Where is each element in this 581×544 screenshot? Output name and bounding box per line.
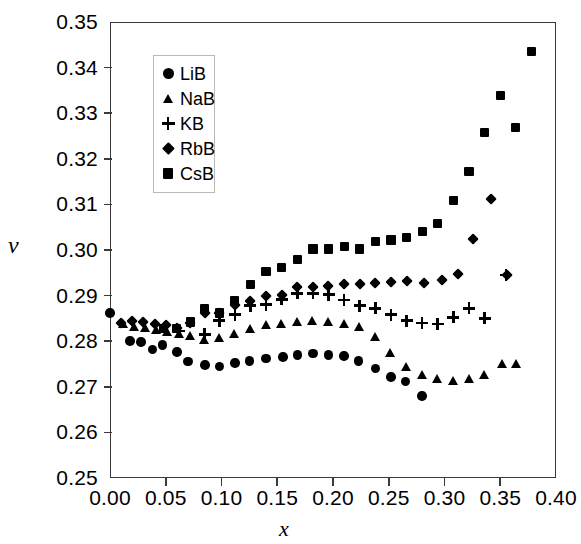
data-point-csb [245, 279, 255, 289]
data-point-lib [158, 340, 168, 350]
legend-item-label: RbB [180, 140, 215, 158]
data-point-rbb [323, 281, 334, 292]
data-point-lib [293, 350, 303, 360]
data-point-kb [338, 294, 350, 306]
data-point-rbb [276, 289, 287, 300]
data-point-rbb [138, 317, 149, 328]
data-point-rbb [486, 193, 497, 204]
data-point-kb [401, 315, 413, 327]
data-point-kb [416, 317, 428, 329]
data-point-csb [185, 317, 195, 327]
data-point-rbb [385, 276, 396, 287]
triangle-marker-icon [160, 91, 176, 107]
data-point-csb [526, 47, 536, 57]
data-point-lib [324, 350, 334, 360]
data-point-rbb [452, 268, 463, 279]
y-axis-tick [104, 340, 112, 342]
data-point-rbb [468, 233, 479, 244]
x-axis-tick [165, 478, 167, 486]
data-point-kb [447, 311, 459, 323]
data-point-nab [214, 332, 225, 343]
x-axis-tick [221, 478, 223, 486]
data-point-kb [463, 302, 475, 314]
y-axis-tick-label: 0.32 [26, 148, 98, 169]
data-point-nab [511, 358, 522, 369]
legend-item-label: KB [180, 115, 204, 133]
data-point-nab [292, 316, 303, 327]
y-axis-tick-label: 0.30 [26, 239, 98, 260]
data-point-nab [370, 331, 381, 342]
data-point-csb [386, 235, 396, 245]
data-point-csb [464, 167, 474, 177]
data-point-csb [261, 267, 271, 277]
data-point-csb [433, 219, 443, 229]
data-point-csb [230, 296, 240, 306]
data-point-nab [229, 327, 240, 338]
data-point-rbb [419, 277, 430, 288]
data-point-rbb [501, 270, 512, 281]
data-point-nab [385, 347, 396, 358]
data-point-nab [401, 361, 412, 372]
legend-item-kb: KB [154, 111, 214, 136]
y-axis-tick [104, 67, 112, 69]
data-point-lib [172, 347, 182, 357]
data-point-csb [214, 308, 224, 318]
data-point-nab [448, 374, 459, 385]
data-point-lib [417, 391, 427, 401]
data-point-csb [292, 254, 302, 264]
data-point-lib [386, 372, 396, 382]
data-point-csb [308, 244, 318, 254]
data-point-nab [417, 369, 428, 380]
y-axis-tick-label: 0.34 [26, 57, 98, 78]
data-point-nab [276, 317, 287, 328]
data-point-csb [172, 323, 182, 333]
data-point-kb [385, 309, 397, 321]
data-point-csb [200, 303, 210, 313]
legend-item-rbb: RbB [154, 136, 214, 161]
y-axis-tick [104, 386, 112, 388]
data-point-rbb [116, 317, 127, 328]
data-point-nab [245, 323, 256, 334]
y-axis-tick-label: 0.28 [26, 330, 98, 351]
data-point-lib [230, 358, 240, 368]
data-point-csb [495, 91, 505, 101]
data-point-lib [401, 377, 411, 387]
legend-item-label: NaB [180, 90, 215, 108]
data-point-nab [432, 373, 443, 384]
data-point-kb [369, 302, 381, 314]
data-point-lib [125, 336, 135, 346]
data-point-lib [136, 337, 146, 347]
y-axis-tick [104, 295, 112, 297]
data-point-lib [261, 354, 271, 364]
x-axis-tick [499, 478, 501, 486]
legend: LiBNaBKBRbBCsB [153, 55, 215, 193]
data-point-nab [339, 317, 350, 328]
x-axis-tick [332, 478, 334, 486]
data-point-csb [480, 127, 490, 137]
x-axis-tick [388, 478, 390, 486]
data-point-nab [323, 316, 334, 327]
x-axis-tick [444, 478, 446, 486]
data-point-lib [148, 345, 158, 355]
data-point-nab [307, 315, 318, 326]
data-point-csb [324, 244, 334, 254]
data-point-csb [417, 227, 427, 237]
data-point-lib [354, 356, 364, 366]
data-point-lib [339, 351, 349, 361]
x-axis-tick [276, 478, 278, 486]
data-point-kb [432, 318, 444, 330]
data-point-lib [371, 364, 381, 374]
x-axis-title: x [0, 516, 568, 542]
data-point-lib [308, 349, 318, 359]
circle-marker-icon [160, 66, 176, 82]
data-point-rbb [292, 282, 303, 293]
data-point-lib [200, 360, 210, 370]
data-point-rbb [307, 282, 318, 293]
legend-item-label: CsB [180, 165, 214, 183]
data-point-lib [278, 352, 288, 362]
data-point-kb [199, 328, 211, 340]
y-axis-tick-label: 0.35 [26, 11, 98, 32]
legend-item-nab: NaB [154, 86, 214, 111]
